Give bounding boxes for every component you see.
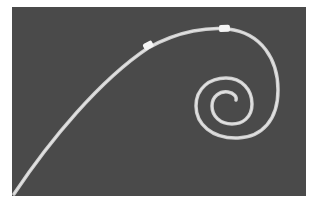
guidewire [14,28,278,194]
guidewire-illustration [0,0,313,199]
marker-band-2 [219,25,230,32]
